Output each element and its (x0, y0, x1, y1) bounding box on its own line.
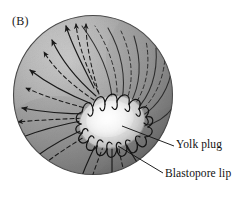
embryo-sphere (0, 8, 194, 184)
panel-label: (B) (12, 14, 29, 29)
figure-panel-b: (B) Yolk plug Blastopore lip (0, 0, 238, 200)
callout-label-blastopore-lip: Blastopore lip (165, 167, 231, 179)
callout-label-yolk-plug: Yolk plug (176, 138, 222, 150)
